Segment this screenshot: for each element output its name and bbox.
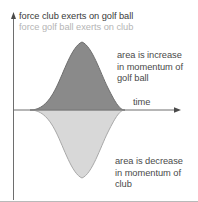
- curve-area-upper: [30, 42, 125, 110]
- annotation-lower-line-1: area is decrease: [115, 156, 183, 168]
- annotation-upper-line-1: area is increase: [117, 50, 183, 62]
- annotation-upper-area: area is increase in momentum of golf bal…: [117, 50, 183, 85]
- curve-area-lower: [30, 110, 125, 178]
- force-time-graph-figure: force club exerts on golf ball force gol…: [0, 0, 198, 202]
- annotation-upper-line-3: golf ball: [117, 73, 183, 85]
- legend: force club exerts on golf ball force gol…: [19, 11, 133, 33]
- annotation-lower-line-3: club: [115, 179, 183, 191]
- legend-item-force-ball-on-club: force golf ball exerts on club: [19, 22, 133, 33]
- annotation-lower-area: area is decrease in momentum of club: [115, 156, 183, 191]
- legend-item-force-club-on-ball: force club exerts on golf ball: [19, 11, 133, 22]
- annotation-upper-line-2: in momentum of: [117, 62, 183, 74]
- x-axis-label: time: [133, 97, 150, 107]
- x-axis-arrow-icon: [174, 107, 181, 113]
- y-axis-arrow-icon: [11, 12, 16, 19]
- annotation-lower-line-2: in momentum of: [115, 168, 183, 180]
